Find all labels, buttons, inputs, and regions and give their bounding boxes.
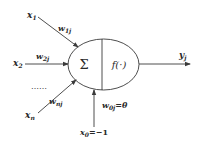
xn-label: xn	[24, 110, 35, 121]
x2-label: x2	[12, 58, 23, 69]
x0-minus-one-label: x0=−1	[79, 127, 108, 138]
neuron-diagram: x1 w1j x2 w2j …… xn wnj Σ f(·) yj w0j=θ …	[0, 0, 200, 145]
input-x1: x1 w1j	[26, 10, 78, 47]
output-yj: yj	[139, 50, 190, 64]
input-x2: x2 w2j	[12, 51, 68, 69]
w2j-label: w2j	[36, 51, 50, 63]
activation-function-label: f(·)	[111, 59, 127, 70]
yj-label: yj	[178, 50, 187, 62]
neuron-body: Σ f(·)	[68, 39, 139, 90]
x1-label: x1	[26, 10, 37, 21]
ellipsis-dots: ……	[31, 82, 47, 91]
sum-icon: Σ	[79, 57, 88, 72]
bias-input: w0j=θ x0=−1	[79, 90, 128, 138]
w0j-theta-label: w0j=θ	[102, 100, 128, 112]
